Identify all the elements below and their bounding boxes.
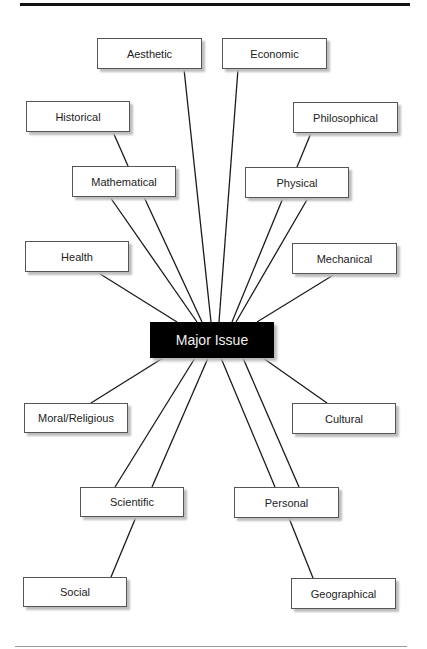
node-cultural: Cultural	[292, 403, 396, 434]
node-label: Geographical	[311, 588, 376, 600]
bottom-rule	[15, 646, 407, 647]
node-label: Personal	[265, 497, 308, 509]
node-aesthetic: Aesthetic	[97, 38, 202, 69]
node-personal: Personal	[234, 487, 339, 518]
node-major-issue: Major Issue	[150, 322, 274, 358]
node-label: Aesthetic	[127, 48, 172, 60]
node-health: Health	[25, 241, 129, 272]
edge-aesthetic-major	[184, 69, 211, 322]
node-label: Scientific	[110, 496, 154, 508]
edge-major-scientific	[152, 358, 208, 487]
node-geographical: Geographical	[291, 578, 396, 609]
node-label: Mathematical	[91, 176, 156, 188]
node-label: Health	[61, 251, 93, 263]
node-label: Moral/Religious	[38, 412, 114, 424]
node-label: Major Issue	[176, 332, 248, 348]
edge-philosophical-physical	[297, 133, 311, 167]
node-economic: Economic	[222, 38, 327, 69]
node-mathematical: Mathematical	[72, 166, 176, 197]
node-label: Physical	[277, 177, 318, 189]
node-social: Social	[23, 577, 127, 607]
node-scientific: Scientific	[80, 487, 184, 517]
edge-major-cultural	[263, 358, 327, 403]
node-historical: Historical	[26, 101, 130, 132]
edge-major-moral	[91, 358, 163, 403]
node-mechanical: Mechanical	[292, 243, 397, 274]
node-label: Cultural	[325, 413, 363, 425]
edge-health-major	[97, 272, 177, 322]
node-label: Historical	[55, 111, 100, 123]
node-label: Social	[60, 586, 90, 598]
edge-scientific-social	[111, 517, 136, 577]
node-moral-religious: Moral/Religious	[24, 403, 128, 433]
node-label: Mechanical	[317, 253, 373, 265]
edge-physical-major	[232, 198, 283, 322]
edge-mechanical-major	[257, 274, 335, 322]
edge-economic-major	[219, 69, 238, 322]
node-physical: Physical	[245, 167, 349, 198]
node-label: Economic	[250, 48, 298, 60]
node-philosophical: Philosophical	[293, 102, 398, 133]
edge-personal-geographical	[289, 518, 313, 578]
edge-major-personal	[221, 358, 275, 487]
edge-mathematical-major	[144, 197, 202, 322]
node-label: Philosophical	[313, 112, 378, 124]
edge-historical-mathematical	[113, 132, 128, 166]
